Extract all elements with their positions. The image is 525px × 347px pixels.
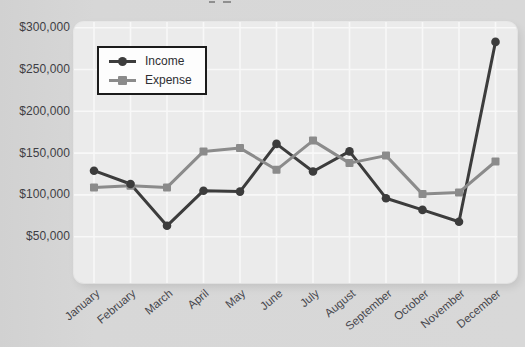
legend-item-income[interactable]: Income: [109, 55, 192, 67]
data-point-expense: [273, 166, 281, 174]
data-point-expense: [455, 188, 463, 196]
y-tick-label: $200,000: [0, 104, 70, 119]
data-point-income: [236, 187, 245, 196]
legend-label: Expense: [145, 74, 192, 86]
data-point-expense: [309, 137, 317, 145]
data-point-expense: [382, 152, 390, 160]
income-swatch-icon: [109, 57, 136, 66]
plot-area: IncomeExpense: [74, 22, 517, 283]
x-tick-label-june: June: [257, 287, 284, 312]
data-point-income: [126, 180, 135, 189]
expense-swatch-icon: [109, 76, 136, 85]
data-point-income: [382, 194, 391, 203]
y-tick-label: $300,000: [0, 20, 70, 35]
data-point-income: [345, 147, 354, 156]
series-markers-expense: [90, 137, 500, 199]
data-point-income: [455, 217, 464, 226]
y-tick-label: $150,000: [0, 146, 70, 161]
data-point-expense: [492, 158, 500, 166]
data-point-expense: [163, 183, 171, 191]
data-point-income: [418, 206, 427, 215]
data-point-income: [272, 140, 281, 149]
data-point-income: [199, 186, 208, 195]
square-marker-icon: [118, 76, 127, 85]
chart-screenshot: IncomeExpense $300,000$250,000$200,000$1…: [0, 0, 525, 347]
data-point-expense: [419, 190, 427, 198]
data-point-income: [309, 167, 318, 176]
clipped-title-fragment: [205, 0, 241, 4]
x-tick-label-march: March: [143, 287, 175, 317]
data-point-expense: [200, 147, 208, 155]
data-point-expense: [236, 144, 244, 152]
y-tick-label: $250,000: [0, 62, 70, 77]
y-tick-label: $50,000: [0, 229, 70, 244]
legend-item-expense[interactable]: Expense: [109, 74, 192, 86]
x-tick-label-april: April: [186, 287, 211, 311]
data-point-expense: [90, 183, 98, 191]
data-point-income: [90, 166, 99, 175]
data-point-income: [491, 38, 500, 47]
data-point-income: [163, 222, 172, 231]
series-line-expense: [94, 141, 496, 195]
legend-label: Income: [145, 55, 184, 67]
x-tick-label-july: July: [297, 287, 320, 309]
chart-legend: IncomeExpense: [97, 46, 207, 95]
circle-marker-icon: [118, 57, 127, 66]
x-tick-label-february: February: [95, 287, 138, 326]
data-point-expense: [346, 159, 354, 167]
x-tick-label-may: May: [223, 287, 247, 310]
y-tick-label: $100,000: [0, 187, 70, 202]
